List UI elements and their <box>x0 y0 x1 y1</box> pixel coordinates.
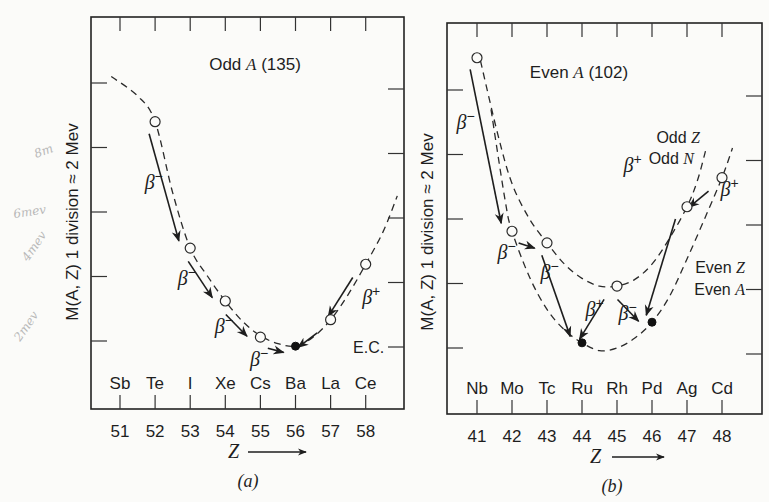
panel-a-z-tick-labels: 5152535455565758 <box>111 422 376 441</box>
beta-sign: − <box>507 238 515 254</box>
beta-minus-label: β− <box>214 312 233 338</box>
decay-transition: β− <box>144 134 179 241</box>
symbol: Z <box>691 129 701 146</box>
odd-odd-label-line1: Odd Z <box>656 129 701 146</box>
element-label-ru: Ru <box>571 379 593 398</box>
panel-a-y-axis-label: M(A, Z) 1 division ≈ 2 Mev <box>63 123 82 321</box>
z-tick-label: 46 <box>643 427 662 446</box>
isobar-point-cd <box>717 173 727 183</box>
panel-a-x-axis-label: Z <box>228 440 306 462</box>
odd-odd-label-line2: Odd N <box>649 150 696 167</box>
symbol: Z <box>736 259 746 276</box>
beta-minus-label: β− <box>540 258 559 284</box>
z-tick-label: 47 <box>678 427 697 446</box>
decay-arrow <box>646 219 675 315</box>
beta-sign: − <box>466 108 474 124</box>
panel-b-title-text: Even A (102) <box>530 63 628 82</box>
handwritten-note: 4mev <box>18 229 49 265</box>
element-label-te: Te <box>146 374 164 393</box>
z-tick-label: 52 <box>146 422 165 441</box>
panel-b-curves <box>481 61 733 351</box>
z-tick-label: 43 <box>538 427 557 446</box>
beta-sign: + <box>372 283 380 299</box>
element-label-la: La <box>321 374 340 393</box>
decay-arrow <box>268 348 284 352</box>
beta-minus-label: β− <box>177 264 196 290</box>
element-label-ce: Ce <box>355 374 377 393</box>
stable-isobar-point-ba <box>292 342 300 350</box>
beta-sign: − <box>225 312 233 328</box>
decay-transition: β− <box>540 255 571 336</box>
beta-sign: − <box>550 258 558 274</box>
element-label-ag: Ag <box>677 379 698 398</box>
decay-transition: E.C. <box>298 333 384 356</box>
z-tick-label: 51 <box>111 422 130 441</box>
z-tick-label: 45 <box>608 427 627 446</box>
element-label-cd: Cd <box>711 379 733 398</box>
z-tick-label: 58 <box>356 422 375 441</box>
panel-b-z-tick-labels: 4142434445464748 <box>468 427 732 446</box>
handwritten-note: 2mev <box>10 309 41 345</box>
symbol: A <box>572 63 584 82</box>
isobar-point-cs <box>255 332 265 342</box>
element-label-ba: Ba <box>285 374 306 393</box>
decay-transition: β− <box>497 238 535 264</box>
panel-b: Even A (102) M(A, Z) 1 division ≈ 2 Mev … <box>418 23 762 497</box>
isobar-point-nb <box>472 53 482 63</box>
beta-sign: + <box>633 151 641 167</box>
decay-arrow <box>328 278 352 317</box>
text-part: (102) <box>584 63 628 82</box>
even-even-curve-label: Even Z Even A <box>694 259 746 298</box>
z-tick-label: 48 <box>713 427 732 446</box>
isobar-point-tc <box>542 238 552 248</box>
text-part: Even <box>695 259 736 276</box>
handwritten-note: 6mev <box>12 202 47 220</box>
isobar-point-ce <box>361 259 371 269</box>
z-tick-label: 54 <box>216 422 235 441</box>
panel-a-title-text: Odd A (135) <box>209 55 301 74</box>
z-tick-label: 53 <box>181 422 200 441</box>
beta-sign: + <box>730 175 738 191</box>
text-part: (135) <box>256 55 300 74</box>
element-label-nb: Nb <box>466 379 488 398</box>
isobar-point-ag <box>682 202 692 212</box>
beta-sign: − <box>155 168 163 184</box>
z-tick-label: 57 <box>321 422 340 441</box>
beta-minus-label: β− <box>144 168 163 194</box>
decay-transition: β− <box>214 312 247 338</box>
panel-b-y-axis-label: M(A, Z) 1 division ≈ 2 Mev <box>418 133 437 331</box>
panel-b-arrows: β−β−β−β+β−β+β+ <box>456 69 739 339</box>
decay-arrow <box>519 243 535 248</box>
isobar-point-i <box>185 243 195 253</box>
handwritten-notes: 8m 6mev 4mev 2mev <box>10 141 54 344</box>
panel-b-title: Even A (102) <box>530 63 628 82</box>
beta-sign: − <box>188 264 196 280</box>
z-label: Z <box>228 440 240 462</box>
panel-b-element-labels: NbMoTcRuRhPdAgCd <box>466 379 733 398</box>
panel-a: Odd A (135) M(A, Z) 1 division ≈ 2 Mev β… <box>63 17 404 492</box>
isobar-point-la <box>326 315 336 325</box>
beta-sign: − <box>260 345 268 361</box>
panel-a-element-labels: SbTeIXeCsBaLaCe <box>110 374 377 393</box>
isobar-point-mo <box>507 226 517 236</box>
element-label-sb: Sb <box>110 374 131 393</box>
text-part: Even <box>530 63 573 82</box>
text-part: Even <box>694 281 735 298</box>
odd-odd-curve-label: Odd Z Odd N <box>649 129 701 167</box>
panel-a-title: Odd A (135) <box>209 55 301 74</box>
beta-minus-label: β− <box>249 345 268 371</box>
decay-transition: β− <box>177 261 213 297</box>
text-part: Odd <box>209 55 246 74</box>
stable-isobar-point-ru <box>578 339 586 347</box>
isobar-point-xe <box>220 296 230 306</box>
element-label-i: I <box>188 374 193 393</box>
text-part: Odd <box>656 129 691 146</box>
decay-arrow <box>298 333 317 347</box>
handwritten-note: 8m <box>32 141 55 161</box>
beta-plus-label: β+ <box>623 151 642 177</box>
stable-isobar-point-pd <box>648 318 656 326</box>
panel-a-points <box>150 117 371 350</box>
decay-transition: β− <box>617 299 638 325</box>
symbol: A <box>734 281 745 298</box>
even-even-label-line1: Even Z <box>695 259 746 276</box>
